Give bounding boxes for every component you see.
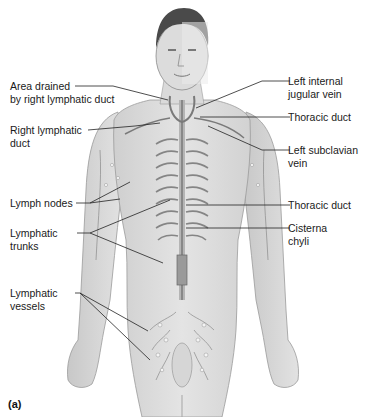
- label-thoracic-duct-upper: Thoracic duct: [288, 111, 351, 124]
- label-line: chyli: [288, 235, 327, 248]
- label-line: vessels: [10, 300, 57, 313]
- label-line: Right lymphatic: [10, 124, 82, 137]
- label-line: duct: [10, 137, 82, 150]
- panel-label: (a): [8, 398, 21, 410]
- label-left-subclavian-vein: Left subclavian vein: [288, 144, 358, 169]
- label-left-internal-jugular-vein: Left internal jugular vein: [288, 75, 343, 100]
- label-line: Thoracic duct: [288, 111, 351, 124]
- lymphatic-system-figure: Area drained by right lymphatic duct Rig…: [0, 0, 365, 417]
- label-thoracic-duct-lower: Thoracic duct: [288, 199, 351, 212]
- label-lymph-nodes: Lymph nodes: [10, 197, 73, 210]
- label-area-drained: Area drained by right lymphatic duct: [10, 80, 114, 105]
- label-line: Left internal: [288, 75, 343, 88]
- label-line: jugular vein: [288, 88, 343, 101]
- label-line: Cisterna: [288, 222, 327, 235]
- head: [156, 8, 208, 90]
- label-right-lymphatic-duct: Right lymphatic duct: [10, 124, 82, 149]
- label-line: vein: [288, 157, 358, 170]
- label-line: Lymph nodes: [10, 197, 73, 210]
- label-line: Lymphatic: [10, 287, 57, 300]
- label-line: Lymphatic: [10, 227, 57, 240]
- label-line: Area drained: [10, 80, 114, 93]
- label-lymphatic-trunks: Lymphatic trunks: [10, 227, 57, 252]
- label-line: by right lymphatic duct: [10, 93, 114, 106]
- label-line: trunks: [10, 240, 57, 253]
- label-line: Left subclavian: [288, 144, 358, 157]
- label-cisterna-chyli: Cisterna chyli: [288, 222, 327, 247]
- label-line: Thoracic duct: [288, 199, 351, 212]
- label-lymphatic-vessels: Lymphatic vessels: [10, 287, 57, 312]
